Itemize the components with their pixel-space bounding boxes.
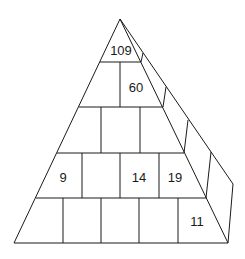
side-tick-2 — [163, 87, 166, 107]
cell-r4-c3: 14 — [132, 170, 146, 185]
number-pyramid-diagram: 109 60 9 14 19 11 — [0, 0, 245, 259]
cell-r5-c5: 11 — [190, 214, 204, 229]
side-back-edge — [120, 19, 233, 184]
cell-r1-c1: 109 — [110, 43, 132, 58]
cell-r4-c1: 9 — [59, 170, 66, 185]
side-tick-1 — [141, 53, 143, 62]
front-right-edge — [120, 19, 228, 243]
cell-r4-c4: 19 — [168, 170, 182, 185]
left-edge — [14, 19, 120, 243]
side-tick-4 — [206, 152, 211, 198]
side-bottom-edge — [228, 184, 233, 243]
side-tick-3 — [184, 120, 188, 153]
cell-r2-c2: 60 — [129, 80, 143, 95]
